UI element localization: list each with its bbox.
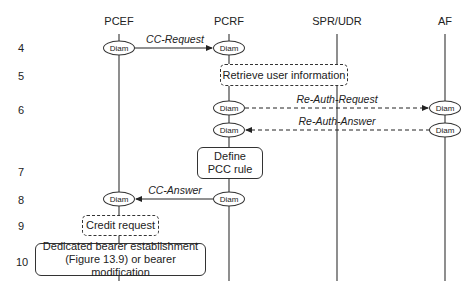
entity-spr-udr: SPR/UDR xyxy=(312,15,362,27)
step-10: 10 xyxy=(16,256,28,268)
step-4: 4 xyxy=(18,42,24,54)
msg-cc-request: CC-Request xyxy=(146,33,204,45)
bearer-line1: Dedicated bearer establishment xyxy=(36,240,205,253)
entity-pcrf: PCRF xyxy=(214,15,244,27)
diam-node-pcrf-6a: Diam xyxy=(213,101,245,116)
msg-cc-answer: CC-Answer xyxy=(148,184,202,196)
entity-af: AF xyxy=(438,15,452,27)
diam-node-af-6a: Diam xyxy=(429,101,461,116)
diam-node-af-6b: Diam xyxy=(429,123,461,138)
bearer-line2: (Figure 13.9) or bearer modification xyxy=(36,253,205,279)
define-pcc-rule-box: DefinePCC rule xyxy=(197,147,263,179)
step-5: 5 xyxy=(18,70,24,82)
define-line2: PCC rule xyxy=(208,163,253,176)
diam-node-pcef-8: Diam xyxy=(103,192,135,207)
step-7: 7 xyxy=(18,166,24,178)
credit-request-box: Credit request xyxy=(82,215,159,236)
define-line1: Define xyxy=(208,150,253,163)
retrieve-user-info-box: Retrieve user information xyxy=(220,64,348,86)
credit-label: Credit request xyxy=(86,219,155,232)
diam-node-pcef-4: Diam xyxy=(103,41,135,56)
msg-re-auth-request: Re-Auth-Request xyxy=(296,93,377,105)
diam-node-pcrf-8: Diam xyxy=(213,192,245,207)
step-8: 8 xyxy=(18,194,24,206)
step-9: 9 xyxy=(18,220,24,232)
entity-pcef: PCEF xyxy=(104,15,133,27)
diam-node-pcrf-4: Diam xyxy=(213,41,245,56)
msg-re-auth-answer: Re-Auth-Answer xyxy=(298,115,375,127)
dedicated-bearer-box: Dedicated bearer establishment(Figure 13… xyxy=(35,243,206,276)
retrieve-label: Retrieve user information xyxy=(223,69,346,82)
step-6: 6 xyxy=(18,104,24,116)
diam-node-pcrf-6b: Diam xyxy=(213,123,245,138)
